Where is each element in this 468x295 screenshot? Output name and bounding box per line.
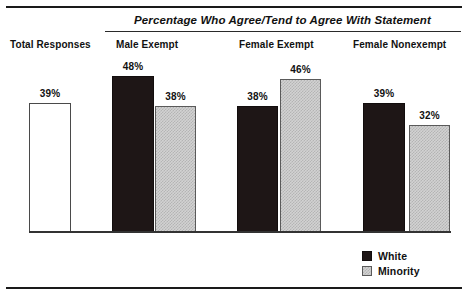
bar-female-nonexempt-white <box>363 103 405 232</box>
legend-swatch-white-icon <box>362 251 372 261</box>
chart-title: Percentage Who Agree/Tend to Agree With … <box>105 14 460 26</box>
bar-value-female-exempt-white: 38% <box>237 91 278 102</box>
chart-figure: Percentage Who Agree/Tend to Agree With … <box>0 0 468 295</box>
legend-item-minority: Minority <box>362 263 420 278</box>
bottom-divider-rule <box>6 287 462 289</box>
legend-swatch-minority-icon <box>362 266 372 276</box>
title-underline <box>105 31 461 32</box>
chart-baseline-axis <box>29 231 451 233</box>
bar-value-female-nonexempt-minority: 32% <box>409 110 450 121</box>
group-label-female-exempt: Female Exempt <box>239 39 314 50</box>
bar-value-male-exempt-minority: 38% <box>155 91 196 102</box>
bar-female-nonexempt-minority <box>409 125 450 232</box>
bar-male-exempt-minority <box>155 106 196 232</box>
bar-value-female-nonexempt-white: 39% <box>363 88 405 99</box>
bar-total-responses <box>29 103 71 232</box>
bar-value-female-exempt-minority: 46% <box>280 64 321 75</box>
group-label-male-exempt: Male Exempt <box>116 39 178 50</box>
top-divider-rule <box>6 6 462 8</box>
group-label-total-responses: Total Responses <box>10 39 91 50</box>
legend-item-white: White <box>362 248 420 263</box>
bar-female-exempt-minority <box>280 79 321 232</box>
bar-value-male-exempt-white: 48% <box>112 61 154 72</box>
bar-male-exempt-white <box>112 76 154 232</box>
legend-label-white: White <box>378 250 407 262</box>
group-label-female-nonexempt: Female Nonexempt <box>353 39 446 50</box>
bar-value-total-responses: 39% <box>29 88 71 99</box>
legend-label-minority: Minority <box>378 265 420 277</box>
bar-female-exempt-white <box>237 106 278 232</box>
chart-legend: White Minority <box>362 248 420 278</box>
